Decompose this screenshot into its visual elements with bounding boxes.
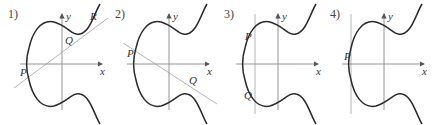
elliptic-curve-figure: 1) y x P Q R 2) y x P Q 3) y x P Q 4) [0,0,439,125]
point-label-p: P [19,66,27,78]
point-label-q: Q [65,34,73,46]
panel-number: 2) [115,7,125,21]
point-label-r: R [89,10,97,22]
tangent-line [123,43,217,104]
panel-1: 1) y x P Q R [8,4,108,124]
panel-number: 3) [224,7,234,21]
panel-number: 1) [8,7,18,21]
x-axis-label: x [99,65,105,77]
panel-2: 2) y x P Q [115,4,217,124]
point-label-p: P [126,47,134,59]
point-label-q: Q [244,89,252,101]
y-axis-label: y [281,10,287,22]
y-axis-label: y [387,10,393,22]
panel-number: 4) [330,7,340,21]
y-axis-label: y [172,10,178,22]
x-axis-label: x [421,65,427,77]
panel-4: 4) y x P [330,4,427,124]
x-axis-label: x [206,65,212,77]
point-label-p: P [244,30,252,42]
point-label-q: Q [189,74,197,86]
point-label-p: P [343,50,351,62]
panel-3: 3) y x P Q [224,4,321,124]
x-axis-label: x [315,65,321,77]
y-axis-label: y [65,10,71,22]
